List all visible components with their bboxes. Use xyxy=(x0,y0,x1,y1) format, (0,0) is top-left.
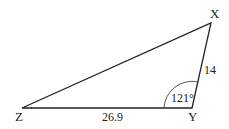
vertex-label-z: Z xyxy=(15,109,23,124)
vertex-label-y: Y xyxy=(188,109,198,124)
side-label-yz: 26.9 xyxy=(102,110,123,124)
side-label-xy: 14 xyxy=(204,63,216,77)
triangle-diagram: X Y Z 14 26.9 121° xyxy=(0,0,229,129)
angle-label-y: 121° xyxy=(171,91,194,105)
vertex-label-x: X xyxy=(210,6,220,21)
